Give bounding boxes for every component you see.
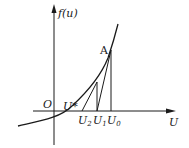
origin-label: O xyxy=(43,98,52,111)
tangent-line-2 xyxy=(82,82,97,111)
point-a-label: A xyxy=(99,44,109,57)
y-axis-arrow-icon xyxy=(52,4,57,13)
newton-method-diagram: f(u) U O A U* U2 U1 U0 xyxy=(0,0,189,148)
x-axis-arrow-icon xyxy=(166,109,176,114)
root-label: U* xyxy=(63,100,78,113)
u1-label: U1 xyxy=(93,114,107,128)
y-axis-label: f(u) xyxy=(57,7,78,20)
x-axis-label: U xyxy=(169,116,179,129)
tangent-line-a xyxy=(97,50,111,111)
u0-label: U0 xyxy=(107,114,121,128)
u2-label: U2 xyxy=(78,114,92,128)
